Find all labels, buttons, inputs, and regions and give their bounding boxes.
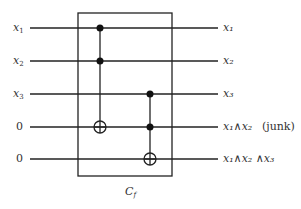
control-dot-icon — [97, 58, 104, 65]
input-label-2: x2 — [13, 55, 24, 70]
junk-note: (junk) — [262, 121, 295, 133]
control-dot-icon — [147, 124, 154, 131]
input-label-1: x1 — [13, 22, 24, 37]
input-label-4: 0 — [16, 121, 23, 133]
output-label-1: x₁ — [223, 22, 234, 34]
input-label-5: 0 — [16, 153, 23, 165]
output-label-3: x₃ — [223, 88, 234, 100]
control-dot-icon — [147, 91, 154, 98]
control-dot-icon — [97, 25, 104, 32]
output-label-4: x₁∧x₂ — [223, 121, 252, 133]
output-label-2: x₂ — [223, 55, 234, 67]
circuit-canvas — [0, 0, 301, 209]
output-label-5: x₁∧x₂ ∧x₃ — [223, 153, 274, 165]
input-label-3: x3 — [13, 88, 24, 103]
box-label: Cf — [125, 186, 136, 201]
